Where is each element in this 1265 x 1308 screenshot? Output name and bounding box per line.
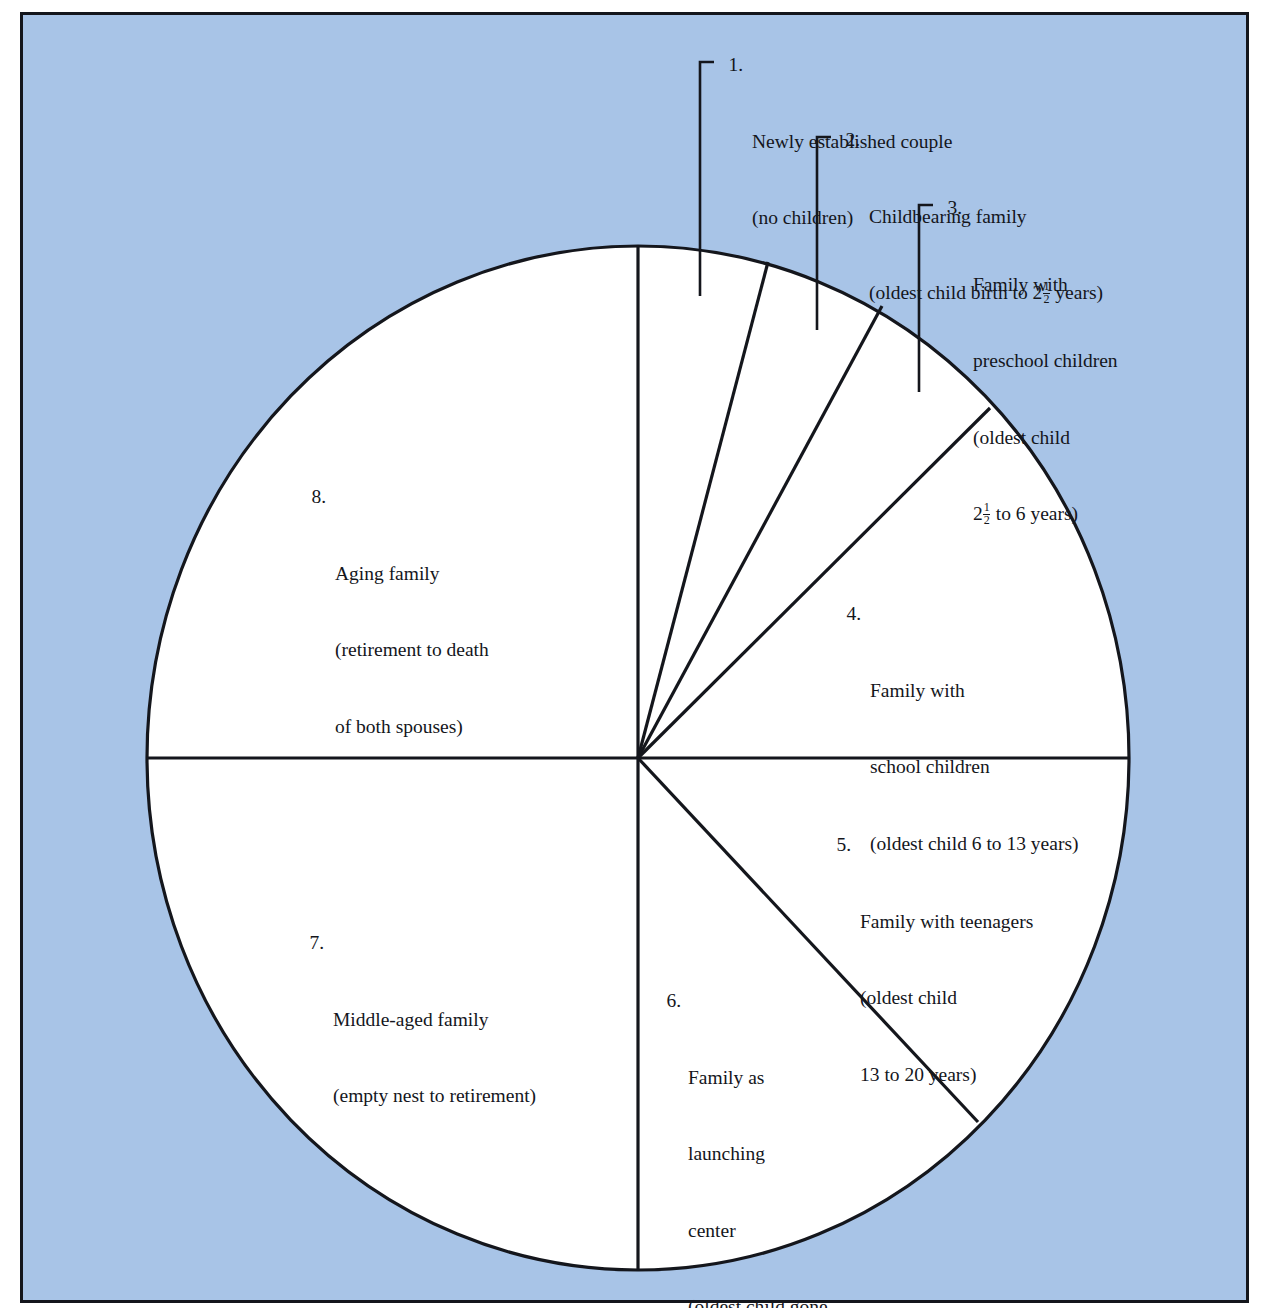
sector-line-3-4: 212 to 6 years) (973, 501, 1118, 527)
family-life-cycle-figure: 1. Newly established couple (no children… (0, 0, 1265, 1308)
sector-number-8: 8. (304, 484, 326, 510)
sector-number-2: 2. (838, 127, 860, 153)
sector-line-3-1: Family with (973, 272, 1118, 298)
sector-number-6: 6. (659, 988, 681, 1014)
sector-line-6-1: Family as (688, 1065, 828, 1091)
sector-number-7: 7. (302, 930, 324, 956)
sector-label-5: 5. Family with teenagers (oldest child 1… (830, 832, 1033, 1138)
sector-line-4-1: Family with (870, 678, 1079, 704)
sector-label-6: 6. Family as launching center (oldest ch… (660, 988, 828, 1308)
sector-line-5-3: 13 to 20 years) (860, 1062, 1033, 1088)
sector-label-8: 8. Aging family (retirement to death of … (305, 484, 489, 790)
sector-label-3: 3. Family with preschool children (oldes… (941, 195, 1118, 578)
sector-line-6-2: launching (688, 1141, 828, 1167)
sector-line-4-2: school children (870, 754, 1079, 780)
sector-line-6-3: center (688, 1218, 828, 1244)
sector-line-7-2: (empty nest to retirement) (333, 1083, 536, 1109)
sector-number-5: 5. (829, 832, 851, 858)
sector-line-6-4: (oldest child gone (688, 1294, 828, 1308)
sector-number-4: 4. (839, 601, 861, 627)
sector-line-8-2: (retirement to death (335, 637, 489, 663)
sector-line-7-1: Middle-aged family (333, 1007, 536, 1033)
sector-line-8-3: of both spouses) (335, 714, 489, 740)
sector-line-5-1: Family with teenagers (860, 909, 1033, 935)
sector-number-3: 3. (940, 195, 962, 221)
sector-line-3-2: preschool children (973, 348, 1118, 374)
sector-number-1: 1. (721, 52, 743, 78)
sector-label-7: 7. Middle-aged family (empty nest to ret… (303, 930, 536, 1160)
sector-line-5-2: (oldest child (860, 985, 1033, 1011)
sector-line-3-3: (oldest child (973, 425, 1118, 451)
fraction-one-half: 12 (983, 502, 990, 526)
sector-line-8-1: Aging family (335, 561, 489, 587)
